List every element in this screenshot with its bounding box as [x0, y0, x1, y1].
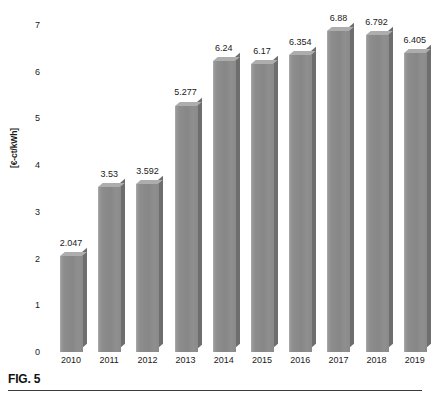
bar-front-face [175, 106, 198, 353]
bar-2015[interactable] [251, 64, 273, 352]
bar-top-face [366, 31, 393, 35]
figure-caption: FIG. 5 [8, 372, 40, 386]
bar-2017[interactable] [327, 31, 349, 352]
y-tick-0: 0 [22, 348, 40, 357]
bar-front-face [366, 35, 389, 352]
y-tick-2: 2 [22, 254, 40, 263]
bar-2014[interactable] [213, 61, 235, 352]
bar-2019[interactable] [404, 53, 426, 352]
bar-value-label-2010: 2.047 [50, 239, 92, 248]
y-tick-6: 6 [22, 67, 40, 76]
bar-2018[interactable] [366, 35, 388, 352]
y-tick-1: 1 [22, 301, 40, 310]
bar-front-face [289, 55, 312, 352]
bar-value-label-2011: 3.53 [88, 170, 130, 179]
bar-front-face [136, 184, 159, 352]
bar-2016[interactable] [289, 55, 311, 352]
y-tick-4: 4 [22, 161, 40, 170]
bar-front-face [251, 64, 274, 352]
bar-front-face [327, 31, 350, 352]
bar-value-label-2016: 6.354 [279, 38, 321, 47]
y-tick-7: 7 [22, 21, 40, 30]
bar-2010[interactable] [60, 256, 82, 352]
y-tick-5: 5 [22, 114, 40, 123]
bar-chart: [€-ct/kWh] 01234567 2.0473.533.5925.2776… [0, 0, 430, 366]
bar-value-label-2017: 6.88 [317, 14, 359, 23]
bar-value-label-2018: 6.792 [356, 18, 398, 27]
x-tick-2011: 2011 [91, 356, 127, 365]
bar-top-face [327, 27, 354, 31]
x-tick-2019: 2019 [397, 356, 433, 365]
caption-divider [8, 390, 422, 391]
x-tick-2013: 2013 [168, 356, 204, 365]
bar-top-face [175, 102, 202, 106]
bar-value-label-2012: 3.592 [126, 167, 168, 176]
bar-value-label-2014: 6.24 [203, 44, 245, 53]
x-tick-2014: 2014 [206, 356, 242, 365]
bar-2011[interactable] [98, 187, 120, 352]
x-tick-2010: 2010 [53, 356, 89, 365]
x-tick-2018: 2018 [359, 356, 395, 365]
bar-value-label-2013: 5.277 [165, 88, 207, 97]
bar-front-face [213, 61, 236, 352]
y-tick-3: 3 [22, 207, 40, 216]
bar-front-face [60, 256, 83, 352]
bar-value-label-2019: 6.405 [394, 36, 435, 45]
bar-top-face [404, 49, 431, 53]
bar-value-label-2015: 6.17 [241, 47, 283, 56]
bar-front-face [98, 187, 121, 352]
bar-top-face [213, 57, 240, 61]
x-tick-2017: 2017 [320, 356, 356, 365]
bar-2012[interactable] [136, 184, 158, 352]
bar-front-face [404, 53, 427, 352]
x-tick-2015: 2015 [244, 356, 280, 365]
x-tick-2016: 2016 [282, 356, 318, 365]
x-tick-2012: 2012 [129, 356, 165, 365]
bar-top-face [251, 60, 278, 64]
bar-2013[interactable] [175, 106, 197, 353]
y-axis-title: [€-ct/kWh] [9, 78, 19, 168]
